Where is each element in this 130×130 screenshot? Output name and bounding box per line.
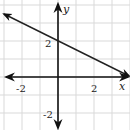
- y-tick-label-neg2: -2: [43, 109, 53, 120]
- y-tick-label-2: 2: [45, 38, 51, 49]
- x-tick-label-2: 2: [91, 83, 97, 94]
- graph-svg: y x -2 2 2 -2: [0, 0, 130, 130]
- grid-lines: [0, 0, 130, 130]
- y-axis-label: y: [62, 3, 70, 16]
- coordinate-plane: y x -2 2 2 -2: [0, 0, 130, 130]
- x-axis-label: x: [119, 80, 126, 93]
- x-tick-label-neg2: -2: [16, 83, 26, 94]
